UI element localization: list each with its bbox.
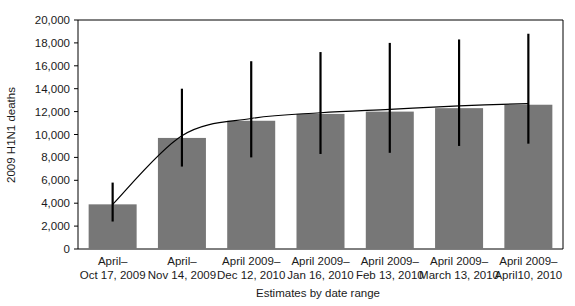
x-axis-category-label-line1: April– [98, 255, 128, 267]
x-axis-category-label-line1: April 2009– [222, 255, 281, 267]
y-axis-tick-label: 12,000 [35, 106, 70, 118]
x-axis-category-label-line1: April 2009– [361, 255, 420, 267]
y-axis-title: 2009 H1N1 deaths [5, 87, 17, 183]
y-axis-tick-label: 2,000 [41, 220, 70, 232]
x-axis-category-label-line1: April 2009– [430, 255, 489, 267]
h1n1-deaths-bar-chart: 02,0004,0006,0008,00010,00012,00014,0001… [0, 0, 575, 306]
chart-figure: 02,0004,0006,0008,00010,00012,00014,0001… [0, 0, 575, 306]
x-axis-category-label-line1: April 2009– [291, 255, 350, 267]
y-axis-tick-label: 16,000 [35, 60, 70, 72]
y-axis-tick-label: 4,000 [41, 197, 70, 209]
x-axis-category-label-line2: Dec 12, 2010 [217, 269, 285, 281]
x-axis-category-label-line2: Oct 17, 2009 [80, 269, 146, 281]
x-axis-title: Estimates by date range [256, 287, 380, 299]
x-axis-category-labels: April–Oct 17, 2009April–Nov 14, 2009Apri… [80, 255, 563, 281]
y-axis-tick-label: 20,000 [35, 14, 70, 26]
x-axis-category-label-line1: April– [167, 255, 197, 267]
y-axis-tick-label: 6,000 [41, 174, 70, 186]
y-axis-tick-label: 8,000 [41, 151, 70, 163]
x-axis-category-label-line2: March 13, 2010 [419, 269, 499, 281]
x-axis-category-label-line2: April10, 2010 [494, 269, 562, 281]
y-axis-tick-label: 0 [64, 243, 70, 255]
y-axis-tick-label: 18,000 [35, 37, 70, 49]
x-axis-category-label-line2: Nov 14, 2009 [148, 269, 216, 281]
x-axis-category-label-line2: Jan 16, 2010 [287, 269, 354, 281]
y-axis-tick-labels: 02,0004,0006,0008,00010,00012,00014,0001… [35, 14, 70, 255]
y-axis-tick-label: 10,000 [35, 129, 70, 141]
x-axis-category-label-line2: Feb 13, 2010 [356, 269, 424, 281]
y-axis-tick-marks [74, 20, 78, 249]
y-axis-tick-label: 14,000 [35, 83, 70, 95]
x-axis-category-label-line1: April 2009– [499, 255, 558, 267]
